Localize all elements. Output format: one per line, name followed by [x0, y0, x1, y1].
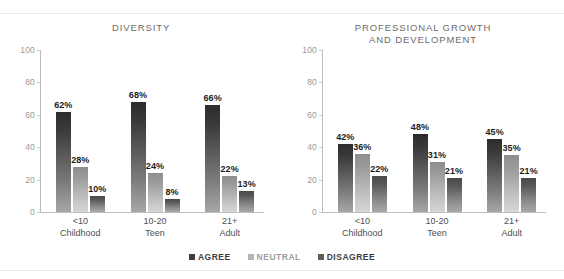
bar-group: 62%28%10%	[56, 50, 105, 212]
y-tick-mark	[37, 212, 40, 213]
y-tick-mark	[37, 82, 40, 83]
y-tick-label: 20	[25, 175, 35, 185]
bar-value-label: 62%	[54, 100, 72, 110]
bar-neutral[interactable]: 24%	[148, 173, 163, 212]
x-axis-professional-growth	[322, 212, 546, 213]
x-axis-diversity	[40, 212, 264, 213]
bar-value-label: 13%	[237, 179, 255, 189]
bar-neutral[interactable]: 35%	[504, 155, 519, 212]
category-label-line-1: 21+	[467, 216, 556, 228]
y-axis-professional-growth	[322, 50, 323, 212]
chart-page: DIVERSITY 100806040200 62%28%10%68%24%8%…	[0, 0, 564, 279]
y-tick-label: 100	[20, 45, 35, 55]
bar-agree[interactable]: 42%	[338, 144, 353, 212]
category-label-line-2: Adult	[185, 228, 274, 240]
y-tick-label: 60	[307, 110, 317, 120]
bar-group: 68%24%8%	[131, 50, 180, 212]
chart-title-line-2: AND DEVELOPMENT	[282, 34, 564, 46]
bar-value-label: 8%	[165, 187, 178, 197]
bar-agree[interactable]: 66%	[205, 105, 220, 212]
top-divider	[0, 13, 564, 14]
legend-label: AGREE	[198, 252, 231, 262]
y-tick-label: 0	[312, 207, 317, 217]
bar-value-label: 45%	[485, 127, 503, 137]
y-tick-mark	[319, 82, 322, 83]
bar-disagree[interactable]: 21%	[447, 178, 462, 212]
y-tick-mark	[319, 50, 322, 51]
bar-value-label: 22%	[220, 164, 238, 174]
bar-value-label: 68%	[129, 90, 147, 100]
y-tick-label: 60	[25, 110, 35, 120]
bar-value-label: 31%	[428, 150, 446, 160]
legend-swatch-icon	[248, 254, 254, 260]
y-tick-label: 80	[307, 77, 317, 87]
bar-value-label: 28%	[71, 155, 89, 165]
chart-title-line-1: PROFESSIONAL GROWTH	[282, 22, 564, 34]
y-tick-label: 100	[302, 45, 317, 55]
chart-panel-diversity: DIVERSITY 100806040200 62%28%10%68%24%8%…	[0, 22, 282, 247]
bar-neutral[interactable]: 31%	[430, 162, 445, 212]
bar-group: 66%22%13%	[205, 50, 254, 212]
bar-value-label: 24%	[146, 161, 164, 171]
y-tick-label: 20	[307, 175, 317, 185]
bar-agree[interactable]: 48%	[413, 134, 428, 212]
bar-neutral[interactable]: 22%	[222, 176, 237, 212]
bar-value-label: 48%	[411, 122, 429, 132]
bar-disagree[interactable]: 21%	[521, 178, 536, 212]
y-tick-mark	[319, 180, 322, 181]
legend-label: DISAGREE	[327, 252, 375, 262]
bar-value-label: 21%	[519, 166, 537, 176]
category-label-line-1: 21+	[185, 216, 274, 228]
category-label: 21+Adult	[185, 216, 274, 239]
y-tick-mark	[37, 115, 40, 116]
bar-disagree[interactable]: 10%	[90, 196, 105, 212]
y-tick-label: 40	[307, 142, 317, 152]
bar-value-label: 35%	[502, 143, 520, 153]
bar-value-label: 36%	[353, 142, 371, 152]
category-label: 21+Adult	[467, 216, 556, 239]
y-tick-mark	[319, 147, 322, 148]
y-tick-label: 0	[30, 207, 35, 217]
bar-value-label: 22%	[370, 164, 388, 174]
bar-value-label: 10%	[88, 184, 106, 194]
legend-item-neutral[interactable]: NEUTRAL	[248, 252, 301, 262]
bar-agree[interactable]: 62%	[56, 112, 71, 212]
bar-group: 45%35%21%	[487, 50, 536, 212]
bar-value-label: 66%	[203, 93, 221, 103]
chart-title-professional-growth: PROFESSIONAL GROWTH AND DEVELOPMENT	[282, 22, 564, 46]
plot-area-diversity: 100806040200 62%28%10%68%24%8%66%22%13% …	[40, 50, 264, 212]
legend-swatch-icon	[189, 254, 195, 260]
y-tick-mark	[319, 115, 322, 116]
bar-value-label: 21%	[445, 166, 463, 176]
legend-item-disagree[interactable]: DISAGREE	[318, 252, 375, 262]
bar-agree[interactable]: 45%	[487, 139, 502, 212]
chart-title-line-1: DIVERSITY	[0, 22, 282, 34]
chart-title-diversity: DIVERSITY	[0, 22, 282, 34]
bar-neutral[interactable]: 28%	[73, 167, 88, 212]
y-tick-mark	[37, 50, 40, 51]
y-tick-mark	[37, 180, 40, 181]
chart-panel-professional-growth: PROFESSIONAL GROWTH AND DEVELOPMENT 1008…	[282, 22, 564, 247]
bar-disagree[interactable]: 8%	[165, 199, 180, 212]
bar-disagree[interactable]: 13%	[239, 191, 254, 212]
category-label-line-2: Adult	[467, 228, 556, 240]
y-tick-label: 40	[25, 142, 35, 152]
legend-item-agree[interactable]: AGREE	[189, 252, 231, 262]
bottom-divider	[0, 270, 564, 271]
bar-group: 42%36%22%	[338, 50, 387, 212]
bar-group: 48%31%21%	[413, 50, 462, 212]
plot-area-professional-growth: 100806040200 42%36%22%48%31%21%45%35%21%…	[322, 50, 546, 212]
y-tick-label: 80	[25, 77, 35, 87]
y-tick-mark	[37, 147, 40, 148]
legend-label: NEUTRAL	[257, 252, 301, 262]
y-tick-mark	[319, 212, 322, 213]
bar-neutral[interactable]: 36%	[355, 154, 370, 212]
y-axis-diversity	[40, 50, 41, 212]
bar-value-label: 42%	[336, 132, 354, 142]
legend-swatch-icon	[318, 254, 324, 260]
bar-disagree[interactable]: 22%	[372, 176, 387, 212]
bar-agree[interactable]: 68%	[131, 102, 146, 212]
chart-legend: AGREENEUTRALDISAGREE	[0, 252, 564, 262]
